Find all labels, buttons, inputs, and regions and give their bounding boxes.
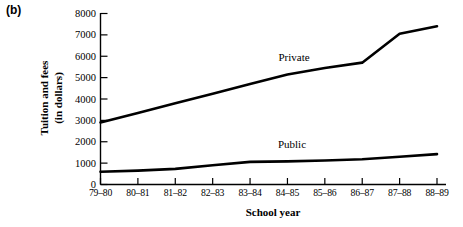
x-axis-ticks	[101, 178, 438, 185]
x-tick-label: 79–80	[89, 187, 113, 198]
y-axis-title-line1: Tuition and fees	[38, 60, 50, 136]
figure-panel: (b) 010002000300040005000600070008000 79…	[0, 0, 463, 227]
y-axis-tick-labels: 010002000300040005000600070008000	[75, 8, 96, 190]
x-tick-label: 88–89	[425, 187, 449, 198]
y-tick-label: 6000	[75, 51, 96, 62]
x-tick-label: 86–87	[351, 187, 375, 198]
y-tick-label: 8000	[75, 8, 96, 19]
y-axis-title: Tuition and fees (in dollars)	[38, 60, 65, 136]
x-tick-label: 84–85	[276, 187, 300, 198]
x-tick-label: 83–84	[238, 187, 262, 198]
y-tick-label: 2000	[75, 136, 96, 147]
series-label-public: Public	[278, 138, 306, 150]
x-tick-label: 87–88	[388, 187, 412, 198]
x-tick-label: 82–83	[201, 187, 225, 198]
y-tick-label: 3000	[75, 115, 96, 126]
series-label-private: Private	[278, 51, 309, 63]
y-tick-label: 5000	[75, 72, 96, 83]
x-tick-label: 85–86	[313, 187, 337, 198]
y-tick-label: 4000	[75, 94, 96, 105]
panel-label: (b)	[6, 3, 21, 17]
x-axis-tick-labels: 79–8080–8181–8282–8383–8484–8585–8686–87…	[89, 187, 449, 198]
y-tick-label: 7000	[75, 29, 96, 40]
series-line-private	[101, 26, 438, 122]
x-tick-label: 81–82	[164, 187, 188, 198]
series-line-public	[101, 154, 438, 172]
y-axis-title-line2: (in dollars)	[52, 72, 65, 124]
x-tick-label: 80–81	[126, 187, 150, 198]
line-chart: 010002000300040005000600070008000 79–808…	[0, 0, 463, 227]
y-tick-label: 1000	[75, 158, 96, 169]
x-axis-title: School year	[246, 206, 301, 218]
y-axis-ticks	[101, 14, 108, 185]
